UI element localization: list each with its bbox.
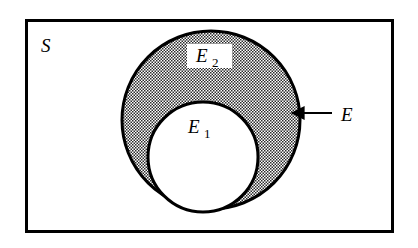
callout-label: E	[340, 104, 353, 125]
inner-set-circle	[148, 102, 258, 212]
outer-set-label-background	[187, 44, 232, 68]
outer-set-label: E	[195, 45, 208, 66]
inner-set-label: E	[187, 116, 200, 137]
sample-space-label: S	[41, 35, 51, 56]
venn-diagram-figure: S E 2 E 1 E	[0, 0, 418, 248]
outer-set-label-subscript: 2	[212, 55, 219, 70]
inner-set-label-subscript: 1	[204, 126, 211, 141]
venn-diagram-canvas: S E 2 E 1 E	[0, 0, 418, 248]
